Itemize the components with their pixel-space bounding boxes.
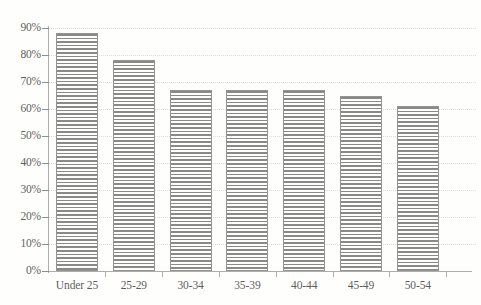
bar xyxy=(226,90,268,271)
x-axis-tick xyxy=(389,271,390,277)
y-axis-tick xyxy=(42,271,49,272)
x-axis-line xyxy=(48,271,472,272)
x-axis-category-label: 25-29 xyxy=(121,279,147,292)
y-axis-tick-label: 90% xyxy=(1,22,41,34)
bar xyxy=(113,60,155,271)
y-axis-tick-label: 30% xyxy=(1,184,41,196)
x-axis-category-label: 40-44 xyxy=(291,279,317,292)
bar xyxy=(56,33,98,271)
y-axis-tick xyxy=(42,109,49,110)
x-axis-category-label: 30-34 xyxy=(177,279,203,292)
y-axis-tick xyxy=(42,136,49,137)
x-axis-category-label: 45-49 xyxy=(348,279,374,292)
y-axis-tick-label: 80% xyxy=(1,49,41,61)
y-axis-tick-label: 10% xyxy=(1,238,41,250)
bar-chart: 0%10%20%30%40%50%60%70%80%90% Under 2525… xyxy=(0,0,481,305)
bars-group xyxy=(48,28,476,271)
y-axis-tick-label: 70% xyxy=(1,76,41,88)
y-axis-tick-label: 0% xyxy=(1,265,41,277)
x-axis-category-label: Under 25 xyxy=(56,279,98,292)
y-axis-tick xyxy=(42,82,49,83)
x-axis-tick xyxy=(276,271,277,277)
bar xyxy=(283,90,325,271)
bar xyxy=(397,106,439,271)
bar xyxy=(170,90,212,271)
x-axis-tick xyxy=(446,271,447,277)
plot-area xyxy=(48,28,476,271)
x-axis-tick xyxy=(219,271,220,277)
bar xyxy=(340,96,382,272)
y-axis-tick xyxy=(42,55,49,56)
y-axis-tick-label: 40% xyxy=(1,157,41,169)
x-axis-category-label: 35-39 xyxy=(234,279,260,292)
x-axis-tick xyxy=(105,271,106,277)
y-axis-labels: 0%10%20%30%40%50%60%70%80%90% xyxy=(0,0,41,305)
y-axis-tick xyxy=(42,28,49,29)
y-axis-tick-label: 60% xyxy=(1,103,41,115)
y-axis-tick xyxy=(42,244,49,245)
x-axis-category-label: 50-54 xyxy=(405,279,431,292)
y-axis-tick xyxy=(42,190,49,191)
y-axis-tick xyxy=(42,163,49,164)
y-axis-tick-label: 50% xyxy=(1,130,41,142)
y-axis-tick xyxy=(42,217,49,218)
x-axis-tick xyxy=(162,271,163,277)
x-axis-tick xyxy=(333,271,334,277)
y-axis-tick-label: 20% xyxy=(1,211,41,223)
